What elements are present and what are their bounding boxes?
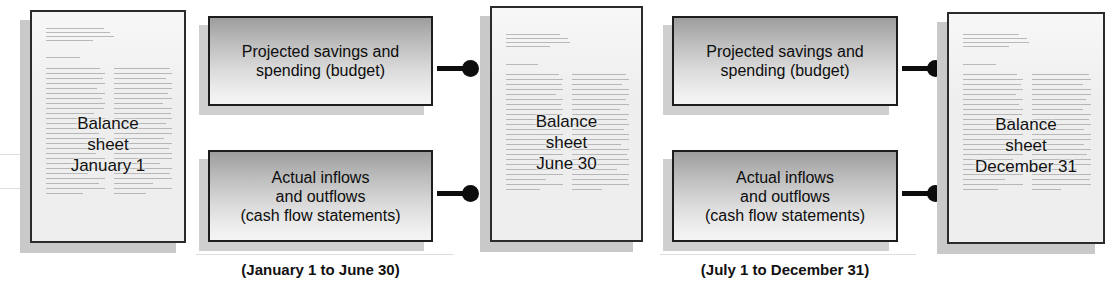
box-face: Projected savings and spending (budget) <box>208 16 433 106</box>
document-label: Balance sheet June 30 <box>492 111 641 174</box>
box-label: Projected savings and spending (budget) <box>236 42 405 80</box>
document-balance-sheet-january-1: Balance sheet January 1 <box>30 10 186 243</box>
box-face: Actual inflows and outflows (cash flow s… <box>672 150 898 242</box>
page-surface: Balance sheet December 31 <box>947 12 1105 244</box>
box-label: Projected savings and spending (budget) <box>700 42 869 80</box>
box-actual-flows-h1[interactable]: Actual inflows and outflows (cash flow s… <box>208 150 433 242</box>
box-projected-savings-h2[interactable]: Projected savings and spending (budget) <box>672 16 898 106</box>
page-subheader-line <box>963 64 1003 68</box>
page-header-lines <box>506 34 570 50</box>
connector-dot <box>462 60 479 77</box>
box-projected-savings-h1[interactable]: Projected savings and spending (budget) <box>208 16 433 106</box>
page-surface: Balance sheet January 1 <box>30 10 186 243</box>
scan-artifact-line <box>196 254 454 255</box>
page-header-lines <box>963 34 1029 50</box>
page-header-lines <box>46 28 114 44</box>
document-label: Balance sheet December 31 <box>949 114 1103 177</box>
scan-artifact-line <box>0 188 22 189</box>
box-face: Actual inflows and outflows (cash flow s… <box>208 150 433 242</box>
page-subheader-line <box>506 64 546 68</box>
page-surface: Balance sheet June 30 <box>490 6 643 242</box>
caption-period-first-half: (January 1 to June 30) <box>208 261 433 278</box>
caption-period-second-half: (July 1 to December 31) <box>672 261 898 278</box>
document-balance-sheet-june-30: Balance sheet June 30 <box>490 6 643 242</box>
connector-dot <box>462 185 479 202</box>
page-subheader-line <box>46 57 86 61</box>
diagram-canvas: Balance sheet January 1 Projected saving… <box>0 0 1115 285</box>
document-balance-sheet-december-31: Balance sheet December 31 <box>947 12 1105 244</box>
scan-artifact-line <box>660 254 916 255</box>
box-label: Actual inflows and outflows (cash flow s… <box>234 168 406 225</box>
box-label: Actual inflows and outflows (cash flow s… <box>699 168 871 225</box>
document-label: Balance sheet January 1 <box>32 113 184 176</box>
box-face: Projected savings and spending (budget) <box>672 16 898 106</box>
box-actual-flows-h2[interactable]: Actual inflows and outflows (cash flow s… <box>672 150 898 242</box>
